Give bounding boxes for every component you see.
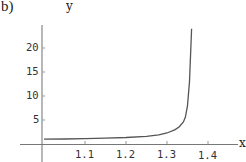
x-tick-label: 1.1 [75,148,94,160]
x-tick-label: 1.2 [116,148,135,160]
plot-area [0,0,246,162]
data-curve [44,29,192,139]
y-tick-label: 15 [26,65,39,77]
x-tick-label: 1.3 [157,148,176,160]
x-tick-label: 1.4 [198,149,217,161]
y-tick-label: 10 [26,89,39,101]
y-tick-label: 5 [33,113,39,125]
y-tick-label: 20 [26,41,39,53]
x-tick-marks [85,141,208,144]
